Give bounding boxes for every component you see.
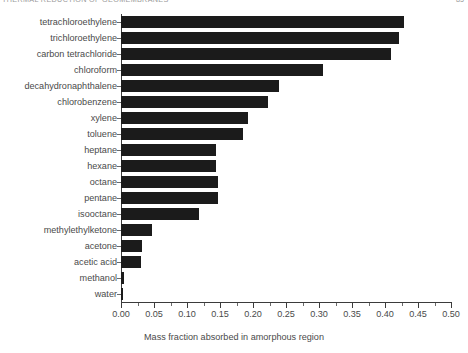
category-label: chlorobenzene [0,94,117,110]
x-axis-tick [286,303,287,308]
x-axis-tick-label: 0.50 [431,309,468,319]
bar-row: water [121,286,451,302]
category-label: hexane [0,158,117,174]
bar [121,176,218,188]
category-label: acetic acid [0,254,117,270]
bar-row: carbon tetrachloride [121,46,451,62]
bar-row: hexane [121,158,451,174]
x-axis-minor-tick [270,303,271,306]
x-axis-tick [352,303,353,308]
category-label: decahydronaphthalene [0,78,117,94]
category-label: heptane [0,142,117,158]
bar-row: methylethylketone [121,222,451,238]
bar [121,80,279,92]
x-axis-minor-tick [303,303,304,306]
bar-row: pentane [121,190,451,206]
x-axis-minor-tick [138,303,139,306]
x-axis-tick [187,303,188,308]
x-axis-tick [451,303,452,308]
x-axis-title: Mass fraction absorbed in amorphous regi… [0,332,468,342]
bar [121,160,216,172]
bar [121,48,391,60]
bar-row: chloroform [121,62,451,78]
bar [121,16,404,28]
bar [121,112,248,124]
bar-row: tetrachloroethylene [121,14,451,30]
category-label: methanol [0,270,117,286]
bar [121,144,216,156]
x-axis-tick [418,303,419,308]
x-axis-tick [253,303,254,308]
x-axis-minor-tick [204,303,205,306]
bar [121,288,123,300]
x-axis-minor-tick [237,303,238,306]
x-axis-minor-tick [336,303,337,306]
bar-row: methanol [121,270,451,286]
bar [121,192,218,204]
bar [121,96,268,108]
bar-row: octane [121,174,451,190]
category-label: trichloroethylene [0,30,117,46]
bar-chart-figure: tetrachloroethylenetrichloroethylenecarb… [0,0,468,353]
bar [121,224,152,236]
category-label: carbon tetrachloride [0,46,117,62]
bar-row: heptane [121,142,451,158]
bar-row: acetic acid [121,254,451,270]
x-axis-minor-tick [435,303,436,306]
x-axis-tick [220,303,221,308]
category-label: octane [0,174,117,190]
x-axis-tick [121,303,122,308]
bar-row: isooctane [121,206,451,222]
bar [121,64,323,76]
x-axis-minor-tick [402,303,403,306]
category-label: tetrachloroethylene [0,14,117,30]
category-label: toluene [0,126,117,142]
bar-row: xylene [121,110,451,126]
category-label: xylene [0,110,117,126]
bar [121,32,399,44]
x-axis-minor-tick [171,303,172,306]
x-axis-tick [319,303,320,308]
category-label: chloroform [0,62,117,78]
plot-area: tetrachloroethylenetrichloroethylenecarb… [121,14,451,302]
x-axis-tick [154,303,155,308]
category-label: acetone [0,238,117,254]
category-label: water [0,286,117,302]
bar-row: chlorobenzene [121,94,451,110]
bar [121,272,124,284]
bar-row: trichloroethylene [121,30,451,46]
category-label: pentane [0,190,117,206]
category-label: isooctane [0,206,117,222]
bar [121,240,142,252]
bar-row: decahydronaphthalene [121,78,451,94]
bar [121,208,199,220]
bar-row: acetone [121,238,451,254]
x-axis-tick [385,303,386,308]
category-label: methylethylketone [0,222,117,238]
bar [121,128,243,140]
x-axis-minor-tick [369,303,370,306]
bar-row: toluene [121,126,451,142]
bar [121,256,141,268]
